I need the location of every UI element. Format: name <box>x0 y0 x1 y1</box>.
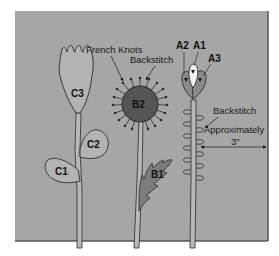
label-c1: C1 <box>55 166 68 177</box>
label-c3: C3 <box>71 88 84 99</box>
embroidery-diagram: C3 C2 C1 <box>0 0 279 256</box>
label-a1: A1 <box>193 40 206 51</box>
annotation-backstitch-b: Backstitch <box>130 54 173 65</box>
label-a2: A2 <box>176 40 189 51</box>
label-b2: B2 <box>132 99 145 110</box>
annotation-backstitch-a: Backstitch <box>213 105 256 116</box>
annotation-approximately: Approximately <box>204 124 264 135</box>
annotation-measure: 3" <box>231 136 240 147</box>
label-b1: B1 <box>151 169 164 180</box>
flower-a-stem <box>190 100 196 248</box>
label-c2: C2 <box>87 139 100 150</box>
label-a3: A3 <box>208 53 221 64</box>
